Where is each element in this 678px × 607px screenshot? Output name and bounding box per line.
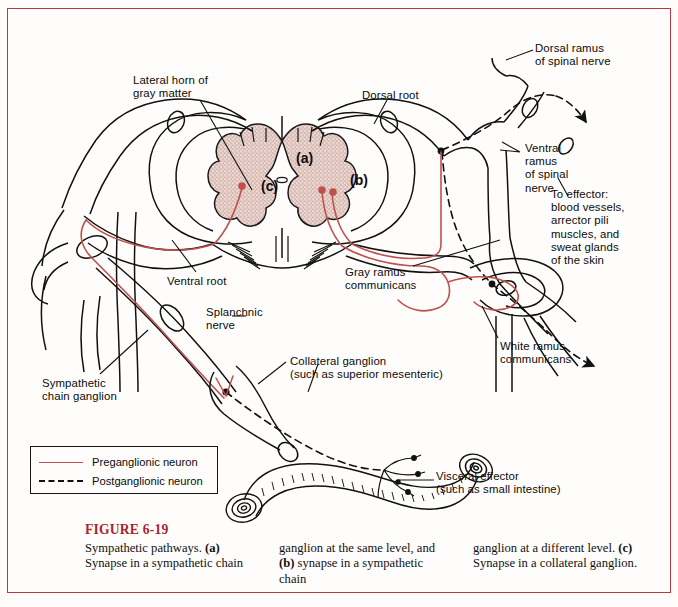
label-visceral-effector: Visceral effector (such as small intesti… (436, 470, 561, 496)
spinal-cord-cross-section (149, 113, 415, 268)
legend-item-postganglionic: Postganglionic neuron (39, 473, 203, 489)
label-dorsal-root: Dorsal root (362, 89, 419, 102)
caption-c3-line2b: Synapse in a (473, 556, 537, 570)
caption-column-1: Sympathetic pathways. (a) Synapse in a s… (85, 541, 257, 587)
label-sympathetic-chain: Sympathetic chain ganglion (42, 377, 117, 403)
collateral-ganglion (210, 366, 302, 465)
sympathetic-pathways-diagram (0, 0, 678, 607)
caption-c2-line2b: synapse in (294, 556, 350, 570)
postganglionic-line-swatch (39, 480, 83, 482)
figure-caption: FIGURE 6-19 Sympathetic pathways. (a) Sy… (85, 522, 645, 587)
caption-c2-lead: ganglion at the same (279, 541, 383, 555)
caption-column-3: ganglion at a different level. (c) Synap… (473, 541, 645, 587)
label-lateral-horn: Lateral horn of gray matter (133, 74, 208, 100)
label-to-effector: To effector: blood vessels, arrector pil… (551, 188, 625, 267)
caption-column-2: ganglion at the same level, and (b) syna… (279, 541, 451, 587)
figure-container: Lateral horn of gray matter Dorsal root … (0, 0, 678, 607)
label-dorsal-ramus: Dorsal ramus of spinal nerve (535, 42, 611, 68)
caption-c1-bold: (a) (205, 541, 220, 555)
caption-c1-line3: sympathetic chain (152, 556, 243, 570)
label-ventral-ramus: Ventral ramus of spinal nerve (525, 142, 568, 195)
legend-box: Preganglionic neuron Postganglionic neur… (30, 446, 218, 494)
synapse-marker-b: (b) (350, 172, 368, 188)
caption-c3-line3: collateral ganglion. (540, 556, 637, 570)
left-peripheral-nerves (32, 140, 236, 404)
synapse-marker-c: (c) (261, 178, 278, 194)
legend-label-postganglionic: Postganglionic neuron (92, 475, 203, 487)
synapse-marker-a: (a) (296, 150, 313, 166)
legend-item-preganglionic: Preganglionic neuron (39, 454, 198, 470)
label-white-ramus: White ramus communicans (500, 340, 571, 366)
caption-c1-lead: Sympathetic pathways. (85, 541, 202, 555)
figure-number: FIGURE 6-19 (85, 522, 645, 538)
caption-c3-bold: (c) (618, 541, 632, 555)
label-collateral-ganglion: Collateral ganglion (such as superior me… (290, 355, 443, 381)
label-splanchnic-nerve: Splanchnic nerve (206, 306, 263, 332)
preganglionic-line-swatch (39, 462, 83, 463)
label-gray-ramus: Gray ramus communicans (345, 266, 416, 292)
legend-label-preganglionic: Preganglionic neuron (92, 456, 198, 468)
caption-c2-bold: (b) (279, 556, 294, 570)
caption-c3-lead: ganglion at a different (473, 541, 584, 555)
caption-columns: Sympathetic pathways. (a) Synapse in a s… (85, 541, 645, 587)
caption-c1-rest: Synapse in a (85, 556, 149, 570)
caption-c3-line2a: level. (587, 541, 618, 555)
caption-c2-line2a: level, and (386, 541, 435, 555)
label-ventral-root: Ventral root (167, 275, 226, 288)
